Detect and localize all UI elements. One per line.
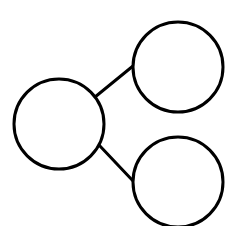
tree-diagram [0, 0, 244, 226]
node-circle-child-top [133, 22, 223, 112]
node-circle-child-bottom [133, 137, 223, 226]
node-circle-root [14, 79, 104, 169]
